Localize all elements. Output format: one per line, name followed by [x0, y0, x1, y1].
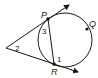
label-p: P — [41, 10, 47, 20]
label-q: Q — [89, 19, 96, 29]
angle-label-1: 1 — [57, 55, 62, 64]
point-r — [52, 62, 56, 66]
geometry-diagram: P Q R 1 2 3 — [0, 0, 98, 78]
label-r: R — [51, 67, 58, 77]
chord-pr — [48, 19, 54, 64]
angle-label-3: 3 — [42, 27, 47, 36]
line-through-p — [6, 5, 69, 48]
angle-label-2: 2 — [15, 44, 20, 53]
